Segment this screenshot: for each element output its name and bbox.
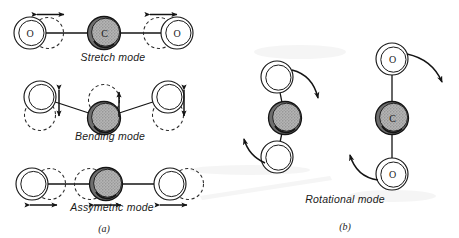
atom-label-oxygen-top-upright: O [389,54,396,65]
atom-label-oxygen-left-stretch: O [26,28,33,39]
panel-caption-a: (a) [98,223,110,235]
oxygen-atom-bottom-upright: O [376,158,408,190]
atom-label-oxygen-bottom-upright: O [389,169,396,180]
carbon-atom-assymetric [90,168,123,201]
oxygen-atom-top-rotated [261,61,293,93]
caption-assymetric-mode: Assymetric mode [69,201,154,213]
atom-label-carbon-upright: C [389,113,396,124]
atom-label-carbon-stretch: C [101,28,108,39]
carbon-atom-rotated [269,102,302,135]
oxygen-atom-left-stretch: O [14,17,46,49]
panel-caption-b: (b) [339,221,351,233]
carbon-atom-stretch: C [88,17,121,50]
carbon-atom-upright: C [376,102,409,135]
upright-molecule: O C O [376,43,409,190]
caption-bending-mode: Bending mode [75,130,145,142]
molecular-modes-figure: O C O Stretch mode [0,0,459,238]
oxygen-atom-bottom-rotated [261,141,293,173]
oxygen-atom-right-bending [152,81,184,113]
oxygen-atom-right-assymetric [154,168,186,200]
caption-rotational-mode: Rotational mode [305,193,384,205]
oxygen-atom-right-stretch: O [161,17,193,49]
oxygen-atom-left-assymetric [16,168,48,200]
oxygen-atom-top-upright: O [376,43,408,75]
figure-container: O C O Stretch mode [0,0,459,238]
oxygen-atom-left-bending [24,81,56,113]
atom-label-oxygen-right-stretch: O [173,28,180,39]
caption-stretch-mode: Stretch mode [81,51,146,63]
